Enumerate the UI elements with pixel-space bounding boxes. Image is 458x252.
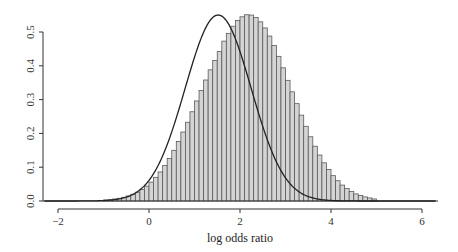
histogram-bar xyxy=(163,166,168,201)
y-tick-label: 0.2 xyxy=(24,127,36,141)
histogram-bar xyxy=(317,155,322,201)
y-tick-label: 0.5 xyxy=(24,25,36,39)
histogram-bar xyxy=(358,196,363,201)
histogram-bar xyxy=(235,21,240,201)
x-tick-label: 6 xyxy=(419,215,425,227)
histogram-bar xyxy=(154,177,159,201)
histogram-bar xyxy=(181,132,186,201)
x-tick-label: 4 xyxy=(328,215,334,227)
histogram-bar xyxy=(213,60,218,201)
histogram-bar xyxy=(195,101,200,201)
histogram-bar xyxy=(345,188,350,201)
histogram-bar xyxy=(340,185,345,201)
histogram-bar xyxy=(267,36,272,201)
histogram-bar xyxy=(263,28,268,201)
histogram-bar xyxy=(331,176,336,201)
histogram-bar xyxy=(140,190,145,201)
histogram-bar xyxy=(304,126,309,201)
histogram-bar xyxy=(240,17,245,201)
histogram-bar xyxy=(281,68,286,201)
histogram-bar xyxy=(167,158,172,201)
histogram-bar xyxy=(222,41,227,201)
histogram-bar xyxy=(172,150,177,201)
y-tick-label: 0.1 xyxy=(24,160,36,174)
histogram-bar xyxy=(295,104,300,201)
histogram-bar xyxy=(135,192,140,201)
histogram-bar xyxy=(185,122,190,201)
x-tick-label: 2 xyxy=(237,215,243,227)
histogram-bar xyxy=(231,26,236,201)
histogram-bar xyxy=(226,33,231,201)
histogram-bar xyxy=(276,56,281,201)
x-axis-title: log odds ratio xyxy=(207,231,273,245)
y-axis: 0.00.10.20.30.40.5 xyxy=(24,25,43,208)
histogram-bar xyxy=(308,137,313,201)
histogram-bar xyxy=(313,146,318,201)
histogram-bar xyxy=(176,142,181,201)
histogram-chart: 0.00.10.20.30.40.5 −20246 log odds ratio xyxy=(0,0,458,252)
histogram-bar xyxy=(258,22,263,201)
histogram-bar xyxy=(249,15,254,201)
histogram-bar xyxy=(204,80,209,201)
histogram-bar xyxy=(336,181,341,201)
histogram-bar xyxy=(349,192,354,201)
x-tick-label: −2 xyxy=(52,215,64,227)
histogram-bar xyxy=(217,52,222,201)
histogram-bar xyxy=(245,15,250,201)
histogram-bar xyxy=(272,46,277,201)
histogram-bar xyxy=(199,90,204,201)
histogram-bar xyxy=(190,112,195,201)
y-tick-label: 0.4 xyxy=(24,58,36,72)
histogram-bar xyxy=(149,182,154,201)
histogram-bar xyxy=(322,163,327,201)
x-tick-label: 0 xyxy=(146,215,152,227)
histogram-bar xyxy=(326,170,331,201)
histogram-bar xyxy=(354,194,359,201)
x-axis: −20246 xyxy=(52,209,425,227)
histogram-bar xyxy=(158,172,163,201)
histogram-bars xyxy=(104,15,377,201)
histogram-bar xyxy=(208,70,213,201)
histogram-bar xyxy=(144,186,149,201)
y-tick-label: 0.0 xyxy=(24,194,36,208)
y-tick-label: 0.3 xyxy=(24,92,36,106)
histogram-bar xyxy=(299,115,304,201)
